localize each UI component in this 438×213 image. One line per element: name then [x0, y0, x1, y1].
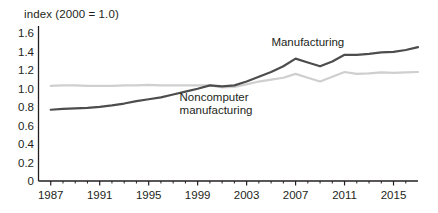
x-tick-label: 2011 [332, 190, 357, 202]
x-tick-label: 2003 [234, 190, 260, 202]
x-tick-label: 1995 [136, 190, 162, 202]
x-tick-label: 1987 [38, 190, 64, 202]
chart-container: index (2000 = 1.0) 1.6 1.4 1.2 1.0 0.8 0… [0, 0, 438, 213]
x-tick-label: 2007 [283, 190, 309, 202]
x-tick-label: 2015 [381, 190, 407, 202]
x-axis-ticks [51, 181, 406, 186]
series-label-noncomputer: Noncomputer manufacturing [180, 91, 253, 117]
x-tick-label: 1991 [87, 190, 113, 202]
x-tick-label: 1999 [185, 190, 211, 202]
series-label-manufacturing: Manufacturing [271, 36, 344, 49]
